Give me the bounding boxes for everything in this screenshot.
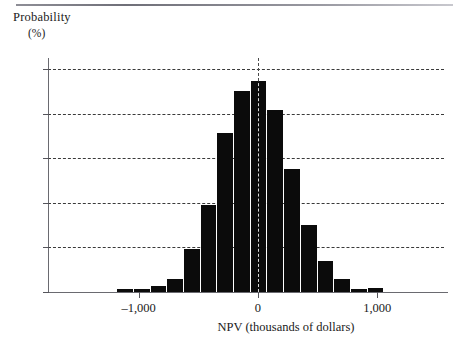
x-axis-title: NPV (thousands of dollars) [218, 320, 355, 335]
y-tick-mark [43, 158, 49, 159]
histogram-bar [318, 261, 334, 292]
y-tick-mark [43, 292, 49, 293]
histogram-bar [301, 225, 317, 292]
y-tick-mark [43, 203, 49, 204]
histogram-bar [351, 289, 367, 292]
histogram-bar [151, 286, 167, 292]
histogram-bar [267, 110, 283, 292]
x-tick-label: 0 [223, 301, 293, 316]
histogram-bar [334, 279, 350, 292]
histogram-bar [217, 133, 233, 292]
histogram-bar [284, 169, 300, 292]
x-tick-label: 1,000 [342, 301, 412, 316]
y-axis-unit-label: (%) [28, 27, 45, 39]
histogram-bar [167, 279, 183, 292]
y-tick-mark [43, 69, 49, 70]
histogram-bar [184, 249, 200, 292]
x-axis-line [48, 292, 448, 293]
histogram-bar [134, 289, 150, 292]
y-tick-mark [43, 114, 49, 115]
y-tick-mark [43, 247, 49, 248]
histogram-bar [234, 91, 250, 292]
histogram-bar [201, 205, 217, 292]
x-tick-mark [258, 292, 259, 298]
histogram-bar [117, 289, 133, 292]
x-tick-mark [139, 292, 140, 298]
histogram-bar [368, 288, 384, 292]
zero-reference-line [258, 58, 259, 292]
plot-area: 048121620 –1,00001,000 [48, 58, 444, 292]
zero-reference-line-upper [258, 58, 259, 81]
x-tick-label: –1,000 [104, 301, 174, 316]
y-axis-title: Probability [13, 10, 71, 25]
x-tick-mark [377, 292, 378, 298]
gridline [48, 69, 444, 70]
histogram-figure: Probability (%) 048121620 –1,00001,000 N… [0, 0, 457, 349]
top-divider-rule [16, 4, 453, 6]
